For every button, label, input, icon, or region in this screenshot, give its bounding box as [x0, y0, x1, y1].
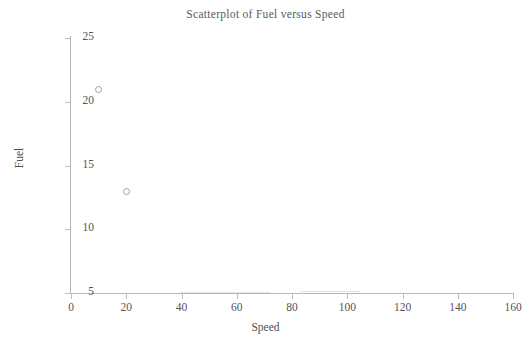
x-tick-label: 80 — [270, 301, 314, 313]
x-tick-mark — [403, 294, 404, 299]
y-axis-title: Fuel — [13, 133, 25, 183]
x-tick-mark — [126, 294, 127, 299]
data-point — [123, 188, 130, 195]
x-tick-mark — [513, 294, 514, 299]
x-tick-label: 40 — [160, 301, 204, 313]
x-tick-label: 20 — [104, 301, 148, 313]
chart-title: Scatterplot of Fuel versus Speed — [0, 8, 531, 20]
x-tick-label: 120 — [381, 301, 425, 313]
data-point — [95, 86, 102, 93]
x-axis-title: Speed — [0, 321, 531, 333]
x-tick-mark — [458, 294, 459, 299]
x-tick-label: 140 — [436, 301, 480, 313]
x-tick-label: 160 — [491, 301, 531, 313]
x-tick-label: 100 — [325, 301, 369, 313]
x-tick-mark — [292, 294, 293, 299]
scatterplot-figure: Scatterplot of Fuel versus Speed 0204060… — [0, 0, 531, 354]
x-tick-mark — [237, 294, 238, 299]
x-tick-mark — [347, 294, 348, 299]
plot-area — [71, 38, 513, 293]
y-axis-tick-labels: 510152025 — [31, 0, 63, 354]
x-tick-label: 60 — [215, 301, 259, 313]
x-tick-mark — [182, 294, 183, 299]
